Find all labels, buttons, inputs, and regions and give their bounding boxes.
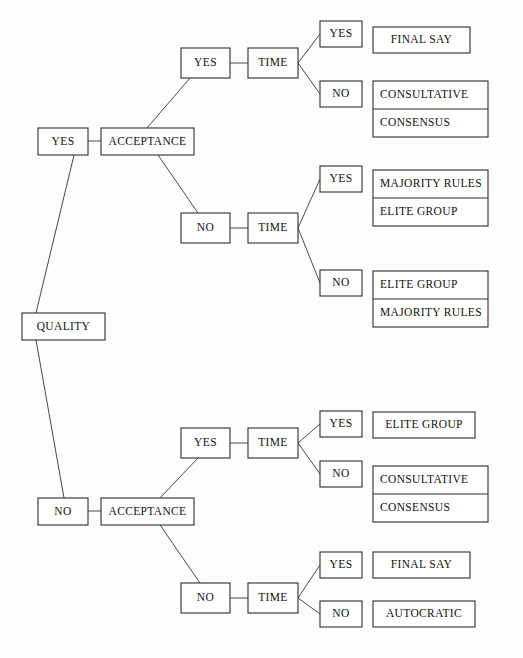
edge-quality-yes [36, 155, 74, 313]
node-label-t3-no: NO [332, 467, 349, 479]
node-label-acc-top-no: NO [197, 221, 214, 233]
node-t3-yes[interactable]: YES [320, 411, 362, 437]
outcome-majority-elite-label-majority-rules: MAJORITY RULES [380, 177, 482, 189]
node-t2-yes[interactable]: YES [320, 166, 362, 192]
node-time-1[interactable]: TIME [248, 48, 298, 78]
node-t4-no[interactable]: NO [320, 601, 362, 627]
edge-acceptance-bot-no [160, 525, 200, 583]
node-label-time-2: TIME [258, 221, 288, 233]
outcome-elite-majority-label-elite-group: ELITE GROUP [380, 278, 458, 290]
outcome-final-say-1[interactable]: FINAL SAY [373, 27, 470, 53]
edge-time3-no [298, 443, 320, 474]
edge-time1-no [298, 63, 320, 94]
node-label-acc-top: ACCEPTANCE [109, 135, 187, 147]
node-time-4[interactable]: TIME [248, 583, 298, 613]
outcome-final-say-2[interactable]: FINAL SAY [373, 552, 470, 578]
edge-time3-yes [298, 424, 320, 443]
outcome-consultative-consensus-1[interactable]: CONSULTATIVECONSENSUS [373, 81, 488, 137]
node-label-t1-no: NO [332, 87, 349, 99]
outcomes-layer: FINAL SAYCONSULTATIVECONSENSUSMAJORITY R… [373, 27, 488, 627]
node-t1-yes[interactable]: YES [320, 21, 362, 47]
edge-time2-yes [298, 179, 320, 228]
outcome-consultative-consensus-1-label-consensus: CONSENSUS [380, 116, 450, 128]
node-acc-bot-yes[interactable]: YES [181, 428, 230, 458]
node-label-time-1: TIME [258, 56, 288, 68]
edge-quality-no [36, 340, 64, 498]
edge-time2-no [298, 228, 320, 283]
edge-time4-no [298, 598, 320, 614]
nodes-layer: QUALITYYESNOACCEPTANCEACCEPTANCEYESNOYES… [22, 21, 362, 627]
node-acc-top-no[interactable]: NO [181, 213, 230, 243]
edge-acceptance-bot-yes [160, 458, 198, 498]
outcome-autocratic-label-autocratic: AUTOCRATIC [386, 607, 462, 619]
node-time-3[interactable]: TIME [248, 428, 298, 458]
node-label-acc-top-yes: YES [194, 56, 217, 68]
node-label-t4-no: NO [332, 607, 349, 619]
decision-tree-diagram: QUALITYYESNOACCEPTANCEACCEPTANCEYESNOYES… [0, 0, 523, 658]
node-label-t1-yes: YES [330, 27, 353, 39]
node-label-q-yes: YES [52, 135, 75, 147]
node-label-acc-bot-yes: YES [194, 436, 217, 448]
edge-time1-yes [298, 34, 320, 63]
outcome-elite-group-2[interactable]: ELITE GROUP [373, 412, 475, 438]
decision-tree-canvas: QUALITYYESNOACCEPTANCEACCEPTANCEYESNOYES… [0, 0, 523, 658]
node-label-q-no: NO [54, 505, 71, 517]
node-label-t3-yes: YES [330, 417, 353, 429]
node-t3-no[interactable]: NO [320, 461, 362, 487]
node-label-time-4: TIME [258, 591, 288, 603]
node-label-t2-yes: YES [330, 172, 353, 184]
node-label-t2-no: NO [332, 276, 349, 288]
outcome-majority-elite[interactable]: MAJORITY RULESELITE GROUP [373, 170, 488, 226]
node-label-time-3: TIME [258, 436, 288, 448]
outcome-elite-majority[interactable]: ELITE GROUPMAJORITY RULES [373, 271, 488, 327]
node-label-acc-bot-no: NO [197, 591, 214, 603]
outcome-final-say-2-label-final-say: FINAL SAY [391, 558, 453, 570]
node-label-t4-yes: YES [330, 558, 353, 570]
node-label-root: QUALITY [37, 320, 91, 332]
node-time-2[interactable]: TIME [248, 213, 298, 243]
node-t1-no[interactable]: NO [320, 81, 362, 107]
outcome-elite-group-2-label-elite-group: ELITE GROUP [385, 418, 463, 430]
outcome-elite-majority-label-majority-rules: MAJORITY RULES [380, 306, 482, 318]
outcome-majority-elite-label-elite-group: ELITE GROUP [380, 205, 458, 217]
node-acc-bot[interactable]: ACCEPTANCE [101, 498, 194, 525]
node-root[interactable]: QUALITY [22, 313, 105, 340]
edge-acceptance-top-no [158, 155, 198, 213]
node-acc-top-yes[interactable]: YES [181, 48, 230, 78]
edge-acceptance-top-yes [147, 78, 190, 128]
outcome-consultative-consensus-2-label-consensus: CONSENSUS [380, 501, 450, 513]
outcome-consultative-consensus-1-label-consultative: CONSULTATIVE [380, 88, 468, 100]
outcome-consultative-consensus-2[interactable]: CONSULTATIVECONSENSUS [373, 466, 488, 522]
node-acc-bot-no[interactable]: NO [181, 583, 230, 613]
edge-time4-yes [298, 565, 320, 598]
node-label-acc-bot: ACCEPTANCE [109, 505, 187, 517]
node-q-no[interactable]: NO [38, 498, 88, 525]
node-q-yes[interactable]: YES [38, 128, 88, 155]
node-t2-no[interactable]: NO [320, 270, 362, 296]
node-acc-top[interactable]: ACCEPTANCE [101, 128, 194, 155]
outcome-consultative-consensus-2-label-consultative: CONSULTATIVE [380, 473, 468, 485]
outcome-final-say-1-label-final-say: FINAL SAY [391, 33, 453, 45]
outcome-autocratic[interactable]: AUTOCRATIC [373, 601, 475, 627]
node-t4-yes[interactable]: YES [320, 552, 362, 578]
